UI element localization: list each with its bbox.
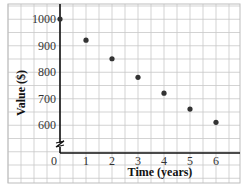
x-tick-label: 1 <box>83 154 89 168</box>
data-point <box>161 91 166 96</box>
y-axis-label: Value ($) <box>14 70 28 116</box>
data-point <box>83 38 88 43</box>
x-tick-label: 2 <box>109 154 115 168</box>
y-tick-label: 1000 <box>32 12 56 26</box>
axes <box>56 4 240 153</box>
data-point <box>109 56 114 61</box>
data-point <box>213 120 218 125</box>
scatter-chart: 6007008009001000 0123456 Time (years) Va… <box>0 0 244 187</box>
x-axis-label: Time (years) <box>128 165 193 179</box>
y-tick-label: 700 <box>38 92 56 106</box>
data-point <box>187 107 192 112</box>
data-point <box>57 16 62 21</box>
y-tick-label: 600 <box>38 118 56 132</box>
x-tick-label: 0 <box>51 154 57 168</box>
y-tick-label: 800 <box>38 65 56 79</box>
axis-break-icon <box>56 141 64 147</box>
y-tick-label: 900 <box>38 39 56 53</box>
data-point <box>135 75 140 80</box>
x-tick-label: 6 <box>213 154 219 168</box>
